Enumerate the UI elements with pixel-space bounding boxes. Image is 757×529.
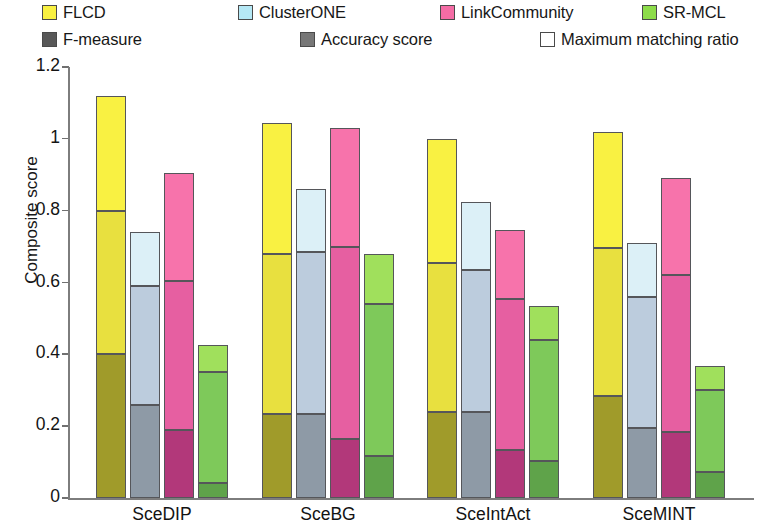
bar-segment-f-measure [262, 414, 292, 498]
bar-segment-accuracy-score [593, 248, 623, 395]
bar-segment-f-measure [593, 396, 623, 498]
bar-scemint-clusterone [627, 243, 657, 498]
bar-segment-maximum-matching-ratio [96, 96, 126, 211]
y-tick-label: 1 [14, 129, 60, 147]
bar-segment-maximum-matching-ratio [427, 139, 457, 263]
bar-scebg-linkcommunity [330, 128, 360, 498]
bar-scebg-clusterone [296, 189, 326, 498]
bar-segment-maximum-matching-ratio [262, 123, 292, 254]
bar-sceintact-flcd [427, 139, 457, 498]
bar-scemint-flcd [593, 132, 623, 498]
bar-segment-f-measure [627, 428, 657, 498]
bar-scedip-clusterone [130, 232, 160, 498]
bar-segment-maximum-matching-ratio [695, 366, 725, 390]
bar-segment-accuracy-score [627, 297, 657, 428]
bar-segment-accuracy-score [427, 263, 457, 412]
bars-layer [0, 0, 757, 529]
bar-segment-f-measure [364, 456, 394, 498]
bar-segment-f-measure [495, 450, 525, 498]
bar-segment-maximum-matching-ratio [198, 345, 228, 372]
bar-segment-accuracy-score [262, 254, 292, 414]
bar-segment-accuracy-score [330, 247, 360, 439]
x-tick-label-sceintact: SceIntAct [397, 504, 589, 525]
bar-segment-accuracy-score [130, 286, 160, 405]
bar-segment-f-measure [96, 354, 126, 498]
bar-scedip-sr-mcl [198, 345, 228, 498]
bar-segment-maximum-matching-ratio [364, 254, 394, 304]
bar-segment-maximum-matching-ratio [164, 173, 194, 281]
y-tick-label: 1.2 [14, 57, 60, 75]
bar-scebg-flcd [262, 123, 292, 498]
bar-segment-accuracy-score [296, 252, 326, 414]
bar-scebg-sr-mcl [364, 254, 394, 498]
bar-sceintact-clusterone [461, 202, 491, 498]
bar-segment-accuracy-score [164, 281, 194, 430]
bar-segment-f-measure [461, 412, 491, 498]
y-tick-label: 0.2 [14, 416, 60, 434]
bar-segment-accuracy-score [695, 390, 725, 472]
bar-segment-f-measure [164, 430, 194, 498]
bar-segment-accuracy-score [529, 340, 559, 461]
bar-sceintact-linkcommunity [495, 230, 525, 498]
bar-sceintact-sr-mcl [529, 306, 559, 498]
x-tick-label-scebg: SceBG [232, 504, 424, 525]
bar-segment-f-measure [427, 412, 457, 498]
bar-segment-f-measure [198, 483, 228, 498]
x-tick-label-scedip: SceDIP [66, 504, 258, 525]
y-tick-label: 0.8 [14, 201, 60, 219]
x-axis-line [68, 498, 754, 500]
bar-segment-accuracy-score [495, 299, 525, 449]
bar-segment-f-measure [130, 405, 160, 498]
bar-segment-accuracy-score [198, 372, 228, 483]
y-tick-label: 0 [14, 488, 60, 506]
bar-segment-maximum-matching-ratio [627, 243, 657, 297]
bar-segment-accuracy-score [96, 211, 126, 355]
bar-scemint-sr-mcl [695, 366, 725, 498]
bar-segment-f-measure [296, 414, 326, 498]
bar-segment-accuracy-score [661, 275, 691, 431]
bar-segment-f-measure [661, 432, 691, 498]
bar-scemint-linkcommunity [661, 178, 691, 498]
bar-scedip-flcd [96, 96, 126, 498]
bar-segment-maximum-matching-ratio [461, 202, 491, 270]
bar-segment-maximum-matching-ratio [495, 230, 525, 299]
y-tick-label: 0.6 [14, 273, 60, 291]
bar-segment-maximum-matching-ratio [330, 128, 360, 247]
bar-segment-maximum-matching-ratio [529, 306, 559, 340]
chart-plot-area: Composite score 00.20.40.60.811.2 SceDIP… [0, 0, 757, 529]
bar-segment-f-measure [695, 472, 725, 498]
bar-segment-maximum-matching-ratio [661, 178, 691, 275]
bar-segment-accuracy-score [461, 270, 491, 412]
bar-segment-accuracy-score [364, 304, 394, 456]
bar-scedip-linkcommunity [164, 173, 194, 498]
y-tick-label: 0.4 [14, 344, 60, 362]
bar-segment-maximum-matching-ratio [296, 189, 326, 252]
bar-segment-maximum-matching-ratio [593, 132, 623, 249]
bar-segment-maximum-matching-ratio [130, 232, 160, 286]
bar-segment-f-measure [529, 461, 559, 498]
x-tick-label-scemint: SceMINT [563, 504, 755, 525]
bar-segment-f-measure [330, 439, 360, 498]
y-axis-line [68, 67, 70, 499]
